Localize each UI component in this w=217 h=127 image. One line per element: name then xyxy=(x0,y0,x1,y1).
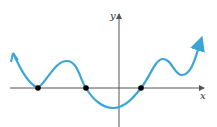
function-curve xyxy=(13,40,201,108)
y-axis-label: y xyxy=(109,10,116,21)
x-axis-label: x xyxy=(200,90,206,101)
x-intercept-point xyxy=(138,85,144,91)
graph-svg: y x xyxy=(0,0,217,127)
function-graph: y x xyxy=(0,0,217,127)
x-intercept-point xyxy=(83,85,89,91)
x-intercept-point xyxy=(35,85,41,91)
